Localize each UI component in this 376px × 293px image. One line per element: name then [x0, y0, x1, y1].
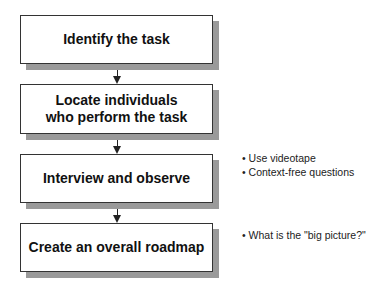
note-context-free: • Context-free questions	[242, 165, 354, 179]
note-big-picture: • What is the "big picture?"	[242, 228, 366, 242]
step-2-box: Locate individuals who perform the task	[20, 84, 213, 134]
arrow-1-head-icon	[113, 76, 121, 84]
step-4-box: Create an overall roadmap	[20, 223, 213, 272]
step-2-label: Locate individuals who perform the task	[46, 92, 188, 126]
interview-notes: • Use videotape • Context-free questions	[242, 151, 354, 179]
roadmap-notes: • What is the "big picture?"	[242, 228, 366, 242]
arrow-2-head-icon	[113, 146, 121, 154]
arrow-3-head-icon	[113, 215, 121, 223]
step-3-label: Interview and observe	[43, 170, 190, 187]
step-4-label: Create an overall roadmap	[29, 239, 205, 256]
step-1-box: Identify the task	[20, 15, 213, 64]
note-videotape: • Use videotape	[242, 151, 354, 165]
step-1-label: Identify the task	[63, 31, 170, 48]
step-3-box: Interview and observe	[20, 154, 213, 203]
